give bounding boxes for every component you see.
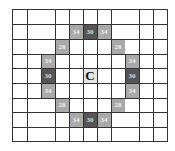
distance-grid: 34 30 34 28 28 34 34 30 C 30 34 34 28 28… [12, 9, 167, 141]
grid-cell-30: 30 [83, 112, 97, 127]
grid-line [12, 39, 167, 40]
center-cell: C [83, 68, 97, 83]
grid-cell-28: 28 [111, 39, 125, 54]
grid-line [69, 9, 70, 142]
grid-line [125, 54, 126, 98]
grid-line [12, 83, 167, 84]
grid-cell-34: 34 [125, 54, 139, 68]
grid-cell-34: 34 [41, 54, 55, 68]
grid-line [83, 9, 84, 142]
grid-cell-28: 28 [55, 39, 69, 54]
grid-cell-34: 34 [69, 112, 83, 127]
grid-line [153, 9, 154, 142]
grid-line [12, 112, 167, 113]
grid-cell-34: 34 [125, 83, 139, 98]
grid-line [55, 9, 56, 142]
grid-cell-30: 30 [125, 68, 139, 83]
grid-cell-34: 34 [41, 83, 55, 98]
grid-cell-34: 34 [97, 112, 111, 127]
grid-line [12, 127, 167, 128]
grid-line [167, 9, 168, 142]
grid-cell-34: 34 [97, 24, 111, 39]
grid-line [12, 141, 167, 142]
grid-line [97, 9, 98, 142]
grid-line [12, 98, 167, 99]
grid-line [12, 68, 167, 69]
grid-line [12, 9, 13, 142]
grid-line [12, 54, 167, 55]
grid-line [41, 54, 42, 98]
grid-line [12, 9, 167, 10]
grid-line [139, 9, 140, 142]
grid-cell-28: 28 [55, 98, 69, 112]
grid-cell-30: 30 [41, 68, 55, 83]
grid-cell-28: 28 [111, 98, 125, 112]
grid-line [12, 24, 167, 25]
grid-cell-30: 30 [83, 24, 97, 39]
grid-line [111, 9, 112, 142]
grid-cell-34: 34 [69, 24, 83, 39]
grid-line [27, 9, 28, 142]
